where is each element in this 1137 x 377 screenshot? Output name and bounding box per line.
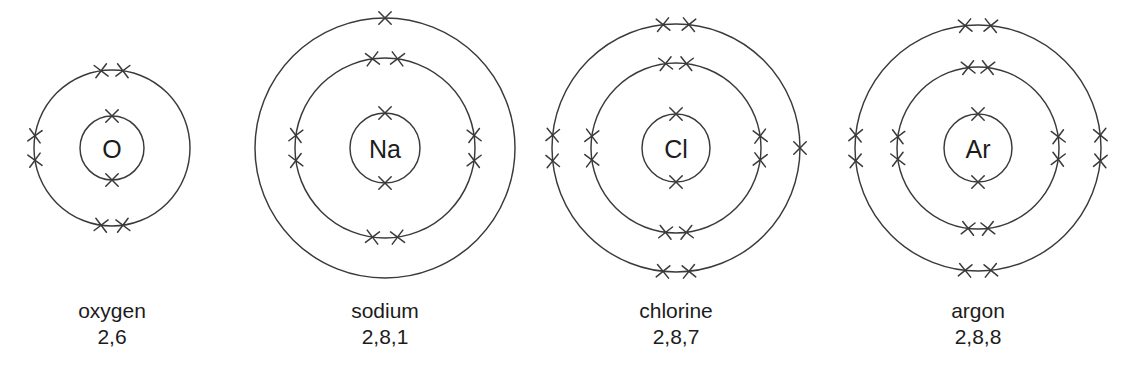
element-symbol-cl: Cl bbox=[664, 135, 688, 163]
caption-electron-configuration: 2,8,1 bbox=[362, 325, 409, 348]
caption-electron-configuration: 2,8,8 bbox=[955, 325, 1002, 348]
caption-element-name: sodium bbox=[351, 299, 419, 322]
caption-oxygen: oxygen2,6 bbox=[78, 299, 146, 348]
atom-oxygen: O bbox=[28, 64, 190, 232]
atom-argon: Ar bbox=[849, 19, 1107, 277]
atom-chlorine: Cl bbox=[546, 18, 806, 278]
atom-sodium: Na bbox=[255, 12, 515, 278]
atom-diagram-canvas: ONaClAroxygen2,6sodium2,8,1chlorine2,8,7… bbox=[0, 0, 1137, 377]
element-symbol-o: O bbox=[102, 135, 121, 163]
caption-element-name: argon bbox=[951, 299, 1005, 322]
caption-element-name: chlorine bbox=[639, 299, 713, 322]
caption-element-name: oxygen bbox=[78, 299, 146, 322]
caption-sodium: sodium2,8,1 bbox=[351, 299, 419, 348]
caption-argon: argon2,8,8 bbox=[951, 299, 1005, 348]
caption-electron-configuration: 2,8,7 bbox=[653, 325, 700, 348]
element-symbol-ar: Ar bbox=[966, 135, 991, 163]
electron-shell-diagram: ONaClAroxygen2,6sodium2,8,1chlorine2,8,7… bbox=[0, 0, 1137, 377]
caption-electron-configuration: 2,6 bbox=[97, 325, 126, 348]
element-symbol-na: Na bbox=[369, 135, 401, 163]
caption-chlorine: chlorine2,8,7 bbox=[639, 299, 713, 348]
